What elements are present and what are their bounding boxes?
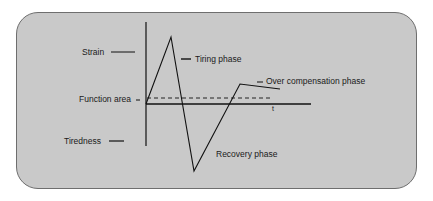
tiredness-label: Tiredness <box>64 137 101 146</box>
tiring-phase-label: Tiring phase <box>195 55 241 64</box>
strain-label: Strain <box>82 48 104 57</box>
recovery-phase-label: Recovery phase <box>216 150 277 159</box>
function-area-label: Function area <box>79 95 131 104</box>
supercompensation-diagram <box>0 0 433 201</box>
over-compensation-phase-label: Over compensation phase <box>266 77 365 86</box>
time-axis-label: t <box>272 105 274 112</box>
